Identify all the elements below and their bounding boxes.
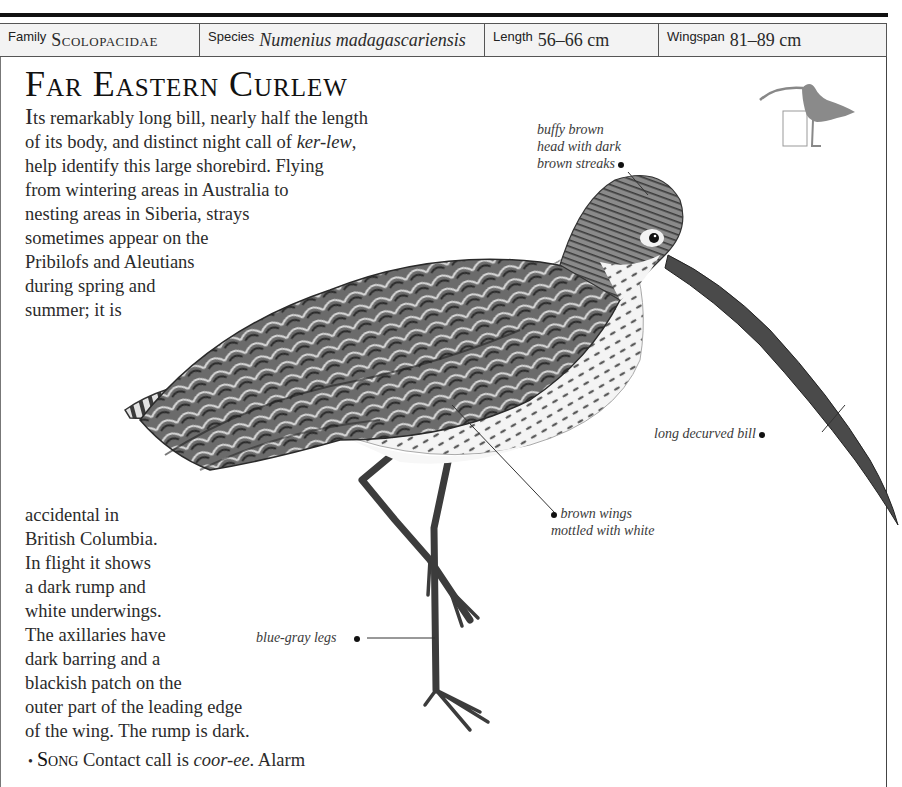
callout-text: mottled with white: [551, 522, 654, 539]
line-text: ,: [352, 132, 357, 152]
description-bottom: accidental in British Columbia. In fligh…: [25, 503, 250, 743]
description-line: nesting areas in Siberia, strays: [25, 202, 368, 226]
song-call: coor-ee: [193, 750, 249, 770]
callout-wings: brown wings mottled with white: [551, 505, 654, 539]
description-line: a dark rump and: [25, 575, 250, 599]
callout-head: buffy brown head with dark brown streaks: [537, 121, 624, 172]
drop-cap: I: [25, 103, 33, 129]
description-line: outer part of the leading edge: [25, 695, 250, 719]
callout-dot-icon: [618, 162, 624, 168]
description-line: of the wing. The rump is dark.: [25, 719, 250, 743]
description-line: of its body, and distinct night call of …: [25, 130, 368, 154]
description-line: Its remarkably long bill, nearly half th…: [25, 104, 368, 130]
callout-text: brown streaks: [537, 156, 615, 171]
description-line: during spring and: [25, 274, 368, 298]
description-line: accidental in: [25, 503, 250, 527]
callout-text: buffy brown: [537, 121, 624, 138]
perching-bird-silhouette-icon: [755, 78, 865, 158]
call-name: ker-lew: [297, 132, 352, 152]
song-text: . Alarm: [250, 750, 306, 770]
description-line: blackish patch on the: [25, 671, 250, 695]
callout-dot-icon: [759, 432, 765, 438]
description-line: summer; it is: [25, 298, 368, 322]
description-line: In flight it shows: [25, 551, 250, 575]
callout-text: head with dark: [537, 138, 624, 155]
callout-text: long decurved bill: [654, 426, 756, 441]
song-section: •Song Contact call is coor-ee. Alarm: [28, 748, 305, 771]
callout-text: blue-gray legs: [256, 630, 336, 645]
callout-text: brown wings: [561, 506, 632, 521]
line-text: of its body, and distinct night call of: [25, 132, 297, 152]
callout-dot-icon: [354, 636, 360, 642]
line-text: ts remarkably long bill, nearly half the…: [33, 108, 368, 128]
description-line: from wintering areas in Australia to: [25, 178, 368, 202]
description-line: Pribilofs and Aleutians: [25, 250, 368, 274]
description-top: Its remarkably long bill, nearly half th…: [25, 104, 368, 322]
song-heading: Song: [37, 748, 78, 770]
song-text: Contact call is: [78, 750, 193, 770]
description-line: dark barring and a: [25, 647, 250, 671]
description-line: British Columbia.: [25, 527, 250, 551]
callout-bill: long decurved bill: [654, 425, 765, 442]
bullet-icon: •: [28, 754, 33, 769]
description-line: sometimes appear on the: [25, 226, 368, 250]
description-line: The axillaries have: [25, 623, 250, 647]
description-line: help identify this large shorebird. Flyi…: [25, 154, 368, 178]
page-title: Far Eastern Curlew: [25, 63, 348, 105]
callout-legs: blue-gray legs: [256, 629, 360, 646]
description-line: white underwings.: [25, 599, 250, 623]
callout-dot-icon: [551, 512, 557, 518]
